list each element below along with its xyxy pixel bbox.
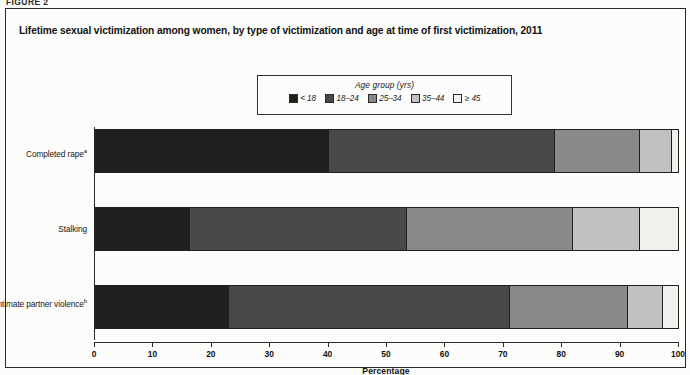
bar-row: Intimate partner violenceb <box>95 285 679 329</box>
x-axis-tick <box>328 342 329 347</box>
x-axis-tick-label: 0 <box>92 349 97 359</box>
bar-segment <box>640 208 678 250</box>
x-axis-tick <box>94 342 95 347</box>
x-axis-tick <box>152 342 153 347</box>
x-axis-tick <box>269 342 270 347</box>
x-axis-tick-label: 50 <box>381 349 390 359</box>
figure-page: FIGURE 2 Lifetime sexual victimization a… <box>0 0 690 375</box>
stacked-bar <box>95 129 679 173</box>
bar-segment <box>672 130 678 172</box>
legend-item: < 18 <box>289 94 316 103</box>
bar-row: Completed rapea <box>95 129 679 173</box>
legend-item-label: 35–44 <box>422 94 444 103</box>
bar-segment <box>96 208 190 250</box>
x-axis-tick-label: 20 <box>206 349 215 359</box>
plot-area: Completed rapeaStalkingIntimate partner … <box>94 127 678 340</box>
legend-item: 18–24 <box>325 94 359 103</box>
category-label: Stalking <box>0 224 87 235</box>
bar-segment <box>628 286 663 328</box>
stacked-bar <box>95 285 679 329</box>
x-axis-tick-label: 90 <box>615 349 624 359</box>
swatch-25-34-icon <box>368 94 377 103</box>
x-axis-tick-label: 10 <box>148 349 157 359</box>
category-label: Completed rapea <box>0 146 87 159</box>
legend: Age group (yrs) < 1818–2425–3435–44≥ 45 <box>257 75 512 115</box>
x-axis-tick-label: 100 <box>671 349 685 359</box>
x-axis-tick <box>503 342 504 347</box>
legend-item-label: ≥ 45 <box>465 94 480 103</box>
swatch-18-24-icon <box>325 94 334 103</box>
legend-item-label: < 18 <box>300 94 316 103</box>
bar-segment <box>190 208 407 250</box>
x-axis-tick-label: 80 <box>557 349 566 359</box>
bar-segment <box>96 130 329 172</box>
x-axis-tick-label: 30 <box>265 349 274 359</box>
x-axis-tick-label: 40 <box>323 349 332 359</box>
bar-segment <box>640 130 672 172</box>
bar-segment <box>663 286 678 328</box>
x-axis-tick-label: 70 <box>498 349 507 359</box>
bar-row: Stalking <box>95 207 679 251</box>
figure-title: Lifetime sexual victimization among wome… <box>19 25 659 37</box>
legend-item-label: 25–34 <box>379 94 401 103</box>
legend-items: < 1818–2425–3435–44≥ 45 <box>258 94 511 103</box>
x-axis-tick-label: 60 <box>440 349 449 359</box>
x-axis: 0102030405060708090100 <box>94 342 678 343</box>
legend-item-label: 18–24 <box>336 94 358 103</box>
swatch-45-plus-icon <box>453 94 462 103</box>
bar-segment <box>510 286 628 328</box>
bar-segment <box>573 208 640 250</box>
swatch-35-44-icon <box>411 94 420 103</box>
bar-segment <box>96 286 229 328</box>
bar-segment <box>329 130 554 172</box>
x-axis-tick <box>386 342 387 347</box>
bar-segment <box>229 286 510 328</box>
legend-item: ≥ 45 <box>453 94 480 103</box>
stacked-bar <box>95 207 679 251</box>
figure-frame: Lifetime sexual victimization among wome… <box>5 8 686 368</box>
legend-item: 25–34 <box>368 94 402 103</box>
bar-segment <box>555 130 641 172</box>
x-axis-tick <box>444 342 445 347</box>
figure-number-kicker: FIGURE 2 <box>6 0 48 5</box>
bar-segment <box>407 208 573 250</box>
x-axis-tick <box>211 342 212 347</box>
swatch-under-18-icon <box>289 94 298 103</box>
x-axis-tick <box>678 342 679 347</box>
x-axis-tick <box>620 342 621 347</box>
legend-item: 35–44 <box>411 94 445 103</box>
category-label: Intimate partner violenceb <box>0 296 87 309</box>
x-axis-tick <box>561 342 562 347</box>
legend-title: Age group (yrs) <box>258 80 511 90</box>
x-axis-title: Percentage <box>94 366 678 375</box>
